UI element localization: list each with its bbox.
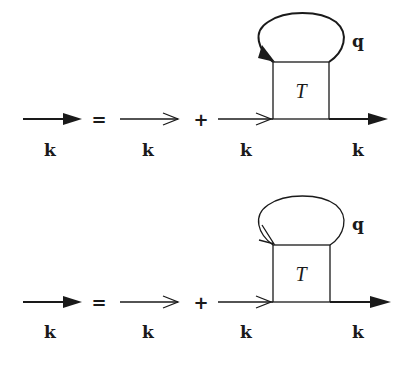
- t-matrix-label: T: [295, 263, 308, 285]
- bare-propagator: [120, 296, 178, 308]
- bare-propagator-in: [218, 113, 273, 125]
- momentum-label-k: k: [352, 140, 365, 160]
- plus-sign: +: [193, 292, 208, 313]
- equation-row-2: k = k + k T q k: [23, 196, 391, 342]
- loop-propagator-bare: [259, 196, 344, 245]
- equals-sign: =: [91, 109, 106, 130]
- equation-row-1: k = k + k T q k: [23, 13, 388, 160]
- dressed-propagator-lhs: [23, 113, 82, 125]
- momentum-label-k: k: [44, 140, 57, 160]
- loop-momentum-label-q: q: [352, 214, 364, 234]
- dressed-propagator-out: [329, 113, 388, 125]
- momentum-label-k: k: [44, 322, 57, 342]
- filled-arrowhead-icon: [370, 296, 391, 308]
- t-matrix-label: T: [295, 80, 308, 102]
- bare-propagator: [120, 113, 178, 125]
- filled-arrowhead-icon: [63, 113, 82, 125]
- momentum-label-k: k: [240, 322, 253, 342]
- equals-sign: =: [91, 292, 106, 313]
- loop-momentum-label-q: q: [352, 31, 364, 51]
- open-arrowhead-icon: [259, 225, 274, 244]
- filled-arrowhead-icon: [368, 113, 388, 125]
- dressed-propagator-lhs: [23, 296, 82, 308]
- momentum-label-k: k: [142, 322, 155, 342]
- momentum-label-k: k: [142, 140, 155, 160]
- momentum-label-k: k: [240, 140, 253, 160]
- momentum-label-k: k: [352, 322, 365, 342]
- plus-sign: +: [193, 109, 208, 130]
- diagram-canvas: k = k + k T q k: [0, 0, 412, 375]
- loop-propagator-dressed: [259, 13, 344, 62]
- filled-arrowhead-icon: [63, 296, 82, 308]
- dressed-propagator-out: [330, 296, 391, 308]
- bare-propagator-in: [218, 296, 273, 308]
